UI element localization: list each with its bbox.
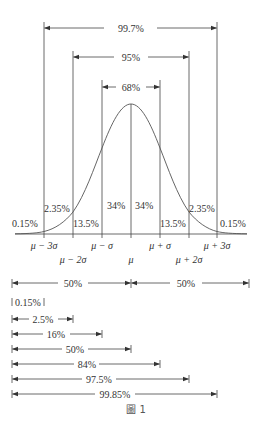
cumulative-16: 16% — [12, 329, 102, 340]
svg-text:2.5%: 2.5% — [33, 314, 54, 325]
region-labels: 0.15% 2.35% 13.5% 34% 34% 13.5% 2.35% 0.… — [12, 200, 246, 229]
cumulative-97-5: 97.5% — [12, 374, 189, 385]
svg-text:μ − 2σ: μ − 2σ — [59, 254, 88, 265]
svg-text:50%: 50% — [66, 344, 84, 355]
svg-text:2.35%: 2.35% — [44, 203, 70, 214]
svg-text:84%: 84% — [78, 359, 96, 370]
span-68: 68% — [103, 82, 160, 93]
normal-distribution-diagram: 99.7% 95% 68% 0.15% 2.35% 13.5% 34% 34% … — [0, 0, 263, 429]
svg-text:2.35%: 2.35% — [189, 203, 215, 214]
svg-text:50%: 50% — [64, 278, 82, 289]
cumulative-2-5: 2.5% — [12, 314, 73, 325]
svg-text:13.5%: 13.5% — [73, 218, 99, 229]
cumulative-0-15: 0.15% — [12, 297, 44, 308]
cumulative-99-85: 99.85% — [12, 389, 217, 400]
svg-text:μ − σ: μ − σ — [90, 240, 114, 251]
axis-labels: μ − 3σ μ − 2σ μ − σ μ μ + σ μ + 2σ μ + 3… — [30, 240, 232, 265]
cumulative-50: 50% — [12, 344, 131, 355]
half-spans: 50% 50% — [12, 278, 249, 289]
svg-text:μ + 3σ: μ + 3σ — [203, 240, 232, 251]
svg-text:0.15%: 0.15% — [15, 297, 41, 308]
svg-text:16%: 16% — [47, 329, 65, 340]
svg-text:50%: 50% — [177, 278, 195, 289]
cumulative-84: 84% — [12, 359, 160, 370]
svg-text:μ: μ — [127, 254, 133, 265]
svg-text:0.15%: 0.15% — [12, 218, 38, 229]
span-99-7: 99.7% — [45, 23, 217, 34]
svg-text:μ + σ: μ + σ — [148, 240, 172, 251]
span-95: 95% — [74, 52, 189, 63]
svg-text:97.5%: 97.5% — [86, 374, 112, 385]
figure-caption: 圖 1 — [126, 404, 146, 415]
svg-text:μ − 3σ: μ − 3σ — [30, 240, 59, 251]
svg-text:68%: 68% — [122, 82, 140, 93]
svg-text:34%: 34% — [135, 200, 153, 211]
svg-text:95%: 95% — [122, 52, 140, 63]
svg-text:34%: 34% — [107, 200, 125, 211]
svg-text:13.5%: 13.5% — [160, 218, 186, 229]
svg-text:99.7%: 99.7% — [118, 23, 144, 34]
svg-text:μ + 2σ: μ + 2σ — [175, 254, 204, 265]
svg-text:0.15%: 0.15% — [220, 218, 246, 229]
svg-text:99.85%: 99.85% — [100, 389, 131, 400]
